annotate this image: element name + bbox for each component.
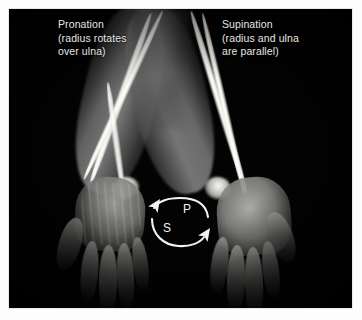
supination-marker-label: S [163, 221, 171, 235]
left-hand-tendon-streaks [79, 181, 142, 246]
pronation-marker-label: P [183, 202, 191, 216]
left-middle-finger [98, 245, 117, 308]
photograph: Pronation (radius rotates over ulna) Sup… [9, 9, 352, 308]
supination-arrow [152, 219, 204, 246]
pronation-annotation: Pronation (radius rotates over ulna) [58, 18, 127, 59]
photo-frame: Pronation (radius rotates over ulna) Sup… [9, 9, 352, 308]
rotation-arrow-diagram: P S [140, 189, 220, 257]
supination-annotation: Supination (radius and ulna are parallel… [222, 18, 299, 59]
anatomy-figure: Pronation (radius rotates over ulna) Sup… [0, 0, 362, 320]
right-hand-palmar [207, 177, 325, 308]
left-index-finger [78, 240, 101, 305]
pronation-arrow [154, 198, 208, 217]
rotation-arrows-svg [140, 189, 220, 257]
